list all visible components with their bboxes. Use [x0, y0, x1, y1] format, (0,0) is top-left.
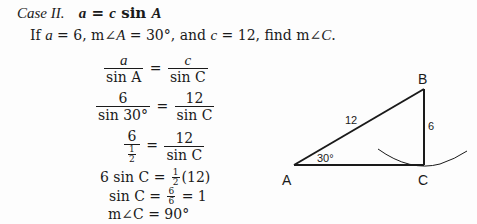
- side-BC-label: 6: [428, 120, 434, 132]
- angle-A-label: 30°: [317, 152, 334, 164]
- vertex-B-label: B: [418, 71, 427, 87]
- triangle-diagram: [0, 0, 477, 224]
- vertex-C-label: C: [418, 172, 428, 188]
- vertex-A-label: A: [282, 172, 291, 188]
- side-AB-label: 12: [345, 114, 357, 126]
